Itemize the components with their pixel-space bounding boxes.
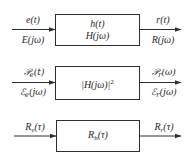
signal-system-diagram: e(t) E(jω) h(t) H(jω) r(t) R(jω) 𝒫e(t) ℰ… <box>0 0 192 162</box>
argument: (jω) <box>29 87 46 97</box>
block-label-Rh-tau: Rh(τ) <box>88 129 108 144</box>
input-label-power-e: 𝒫e(t) <box>18 67 50 81</box>
block-label-H-magnitude-squared: |H(jω)|2 <box>81 76 114 91</box>
output-label-power-r: 𝒫r(ω) <box>146 67 182 81</box>
block-label-h-t: h(t) <box>90 18 104 30</box>
magnitude: |H(jω)| <box>81 79 110 90</box>
argument: (jω) <box>160 87 177 97</box>
output-label-R-jw: R(jω) <box>145 34 181 45</box>
argument: (t) <box>34 67 45 77</box>
output-label-Rr-tau: Rr(τ) <box>147 121 181 136</box>
block-label-H-jw: H(jω) <box>86 30 110 42</box>
input-label-Re-tau: Re(τ) <box>18 121 52 136</box>
argument: (τ) <box>163 121 173 132</box>
input-label-E-jw: E(jω) <box>16 34 50 45</box>
system-block-Rh: Rh(τ) <box>56 120 140 152</box>
system-block-h: h(t) H(jω) <box>55 14 140 46</box>
argument: (ω) <box>161 67 175 77</box>
output-label-energy-r: ℰr(jω) <box>145 87 183 101</box>
input-label-energy-e: ℰe(jω) <box>14 87 52 101</box>
argument: (τ) <box>34 121 44 132</box>
input-label-e-t: e(t) <box>20 14 46 25</box>
argument: (τ) <box>98 129 108 140</box>
output-label-r-t: r(t) <box>150 14 176 25</box>
system-block-H-squared: |H(jω)|2 <box>55 66 140 100</box>
superscript: 2 <box>110 78 114 86</box>
